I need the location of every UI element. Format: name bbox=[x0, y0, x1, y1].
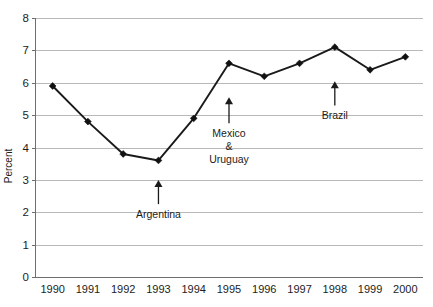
y-tick-label: 3 bbox=[23, 174, 29, 186]
x-tick-label: 2000 bbox=[393, 283, 417, 295]
x-tick-label: 1995 bbox=[217, 283, 241, 295]
y-tick-label: 5 bbox=[23, 109, 29, 121]
y-tick-label: 1 bbox=[23, 239, 29, 251]
x-tick-label: 1991 bbox=[76, 283, 100, 295]
y-tick-label: 2 bbox=[23, 206, 29, 218]
y-tick-label: 4 bbox=[23, 142, 30, 154]
chart-canvas: 012345678 199019911992199319941995199619… bbox=[0, 0, 433, 307]
annotation-label: & bbox=[225, 140, 232, 152]
x-tick-label: 1992 bbox=[111, 283, 135, 295]
y-tick-label: 7 bbox=[23, 44, 29, 56]
x-tick-label: 1990 bbox=[40, 283, 64, 295]
annotation-label: Mexico bbox=[212, 127, 245, 139]
x-tick-label: 1994 bbox=[181, 283, 205, 295]
annotation-label: Argentina bbox=[136, 208, 181, 220]
x-tick-label: 1998 bbox=[323, 283, 347, 295]
x-tick-label: 1996 bbox=[252, 283, 276, 295]
y-tick-label: 8 bbox=[23, 12, 29, 24]
y-tick-label: 6 bbox=[23, 77, 29, 89]
x-tick-label: 1993 bbox=[146, 283, 170, 295]
y-tick-label: 0 bbox=[23, 271, 29, 283]
x-axis-tick-labels: 1990199119921993199419951996199719981999… bbox=[40, 283, 417, 295]
annotation-label: Brazil bbox=[322, 109, 348, 121]
annotation-label: Uruguay bbox=[209, 153, 249, 165]
y-axis-title: Percent bbox=[3, 149, 14, 184]
x-tick-label: 1997 bbox=[287, 283, 311, 295]
line-chart: 012345678 199019911992199319941995199619… bbox=[0, 0, 433, 307]
x-tick-label: 1999 bbox=[358, 283, 382, 295]
